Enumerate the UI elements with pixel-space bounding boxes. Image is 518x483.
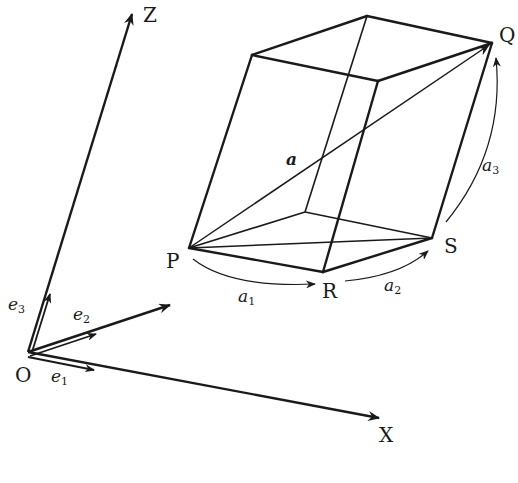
e2-unit-vector: [30, 334, 96, 356]
edge-top-2: [367, 16, 492, 43]
edge-R-S: [323, 238, 432, 272]
edge-top-1: [252, 16, 367, 55]
x-axis: [28, 352, 379, 418]
arc-a1: [193, 259, 315, 284]
label-x: X: [379, 423, 394, 447]
label-p: P: [166, 249, 179, 273]
label-q: Q: [499, 23, 515, 47]
label-e2: e2: [73, 304, 90, 326]
edge-hidden-S: [305, 212, 432, 238]
e3-unit-vector: [32, 294, 50, 352]
label-a3: a3: [482, 155, 499, 177]
edge-top-3: [252, 55, 378, 81]
parallelepiped-diagram: Z X O P R S Q a a1 a2 a3 e1 e2 e3: [0, 0, 518, 483]
label-e3: e3: [8, 294, 25, 316]
label-r: R: [322, 279, 338, 303]
bottom-face-diagonal: [189, 238, 432, 248]
edge-S-Q: [432, 43, 492, 238]
arc-a3: [446, 58, 497, 222]
edge-hidden-top: [305, 16, 367, 212]
label-a2: a2: [384, 275, 401, 297]
label-a: a: [286, 149, 297, 169]
edge-P-hidden: [189, 212, 305, 248]
edge-R-top: [323, 81, 378, 272]
z-axis: [28, 14, 132, 352]
y-axis: [28, 305, 170, 352]
edge-top-4: [378, 43, 492, 81]
label-s: S: [444, 234, 458, 258]
label-a1: a1: [238, 286, 255, 308]
label-o: O: [15, 363, 31, 387]
label-z: Z: [143, 3, 157, 27]
label-e1: e1: [51, 366, 68, 388]
edge-P-top: [189, 55, 252, 248]
